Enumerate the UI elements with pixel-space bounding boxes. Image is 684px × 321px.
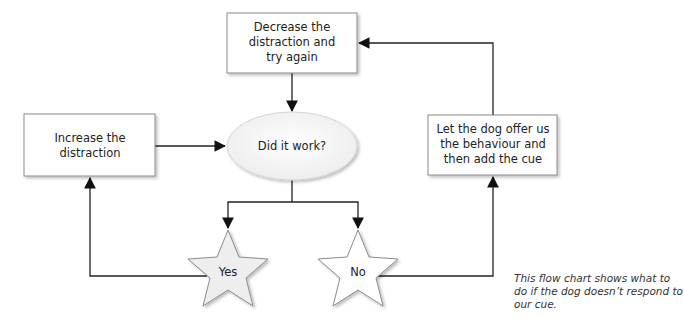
node-did-it-work: Did it work? (227, 112, 357, 180)
edge-decision-to-no (292, 202, 358, 228)
svg-text:Decrease the: Decrease the (254, 20, 330, 34)
node-text: Did it work? (258, 139, 326, 153)
svg-text:try again: try again (266, 50, 318, 64)
svg-text:Increase the: Increase the (54, 131, 125, 145)
node-text: try again (266, 50, 318, 64)
edge-offer-to-decrease (359, 43, 493, 115)
svg-text:No: No (350, 265, 366, 279)
node-decrease-distraction: Decrease the distraction and try again (227, 13, 357, 73)
node-increase-distraction: Increase the distraction (24, 114, 155, 176)
svg-text:Did it work?: Did it work? (258, 139, 326, 153)
svg-text:distraction and: distraction and (249, 35, 335, 49)
node-text: Increase the (54, 131, 125, 145)
node-no-star: No (318, 230, 398, 306)
node-let-dog-offer: Let the dog offer us the behaviour and t… (428, 115, 557, 175)
svg-text:the behaviour and: the behaviour and (440, 137, 546, 151)
svg-text:Yes: Yes (218, 265, 238, 279)
figure-caption: This flow chart shows what to do if the … (514, 272, 684, 311)
svg-text:Let the dog offer us: Let the dog offer us (437, 122, 550, 136)
edge-yes-to-increase (90, 178, 207, 276)
node-text: the behaviour and (440, 137, 546, 151)
node-text: Let the dog offer us (437, 122, 550, 136)
node-text: distraction and (249, 35, 335, 49)
node-text: No (350, 265, 366, 279)
node-text: Yes (218, 265, 238, 279)
node-yes-star: Yes (188, 230, 268, 306)
svg-text:then add the cue: then add the cue (444, 152, 542, 166)
svg-text:distraction: distraction (59, 146, 120, 160)
node-text: then add the cue (444, 152, 542, 166)
edge-decision-to-yes (228, 202, 292, 228)
node-text: distraction (59, 146, 120, 160)
node-text: Decrease the (254, 20, 330, 34)
